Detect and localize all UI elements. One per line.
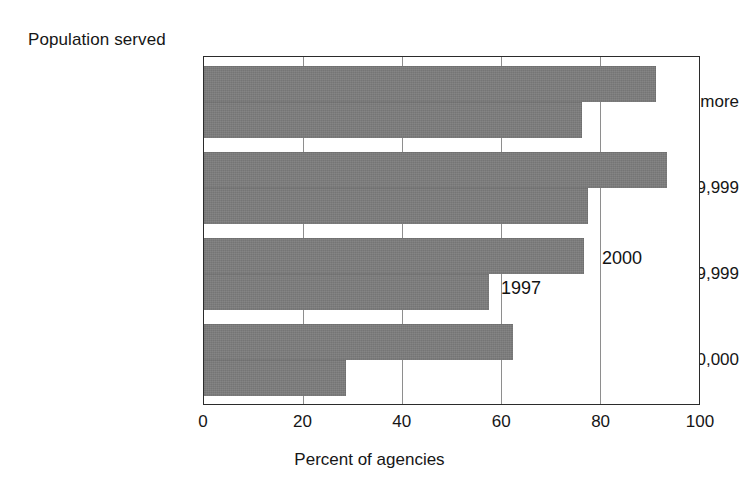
series-annotation-1997: 1997	[501, 278, 541, 299]
bar-50000-249999-2000	[204, 152, 667, 188]
bar-under-10000-2000	[204, 324, 513, 360]
gridline-80	[600, 57, 601, 404]
xtick-label-0: 0	[173, 412, 233, 432]
bar-250000-or-more-2000	[204, 66, 656, 102]
plot-area	[203, 56, 700, 405]
xtick-label-40: 40	[372, 412, 432, 432]
series-annotation-2000: 2000	[602, 248, 642, 269]
xtick-label-80: 80	[571, 412, 631, 432]
xtick-label-20: 20	[272, 412, 332, 432]
xtick-label-60: 60	[471, 412, 531, 432]
x-axis-title: Percent of agencies	[0, 450, 739, 470]
bar-under-10000-1997	[204, 360, 346, 396]
bar-10000-49999-2000	[204, 238, 584, 274]
bar-50000-249999-1997	[204, 188, 588, 224]
bar-chart: Population served 250,000 or more 50,000…	[0, 0, 739, 484]
population-served-axis-title: Population served	[28, 30, 166, 50]
xtick-label-100: 100	[670, 412, 730, 432]
bar-10000-49999-1997	[204, 274, 489, 310]
bar-250000-or-more-1997	[204, 102, 582, 138]
